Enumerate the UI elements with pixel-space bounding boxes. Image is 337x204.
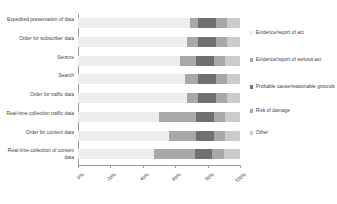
x-axis-tick [78, 165, 79, 168]
bar-segment-5[interactable] [225, 112, 240, 122]
bar-row [78, 89, 240, 108]
bar-segment-4[interactable] [216, 18, 227, 28]
stacked-bar[interactable] [78, 37, 240, 47]
bar-segment-1[interactable] [78, 93, 187, 103]
y-axis-label: Real-time collection traffic data [2, 111, 74, 117]
y-axis-label: Search [2, 73, 74, 79]
stacked-bar[interactable] [78, 93, 240, 103]
legend-swatch-icon [250, 58, 253, 61]
bar-segment-1[interactable] [78, 74, 185, 84]
bar-segment-1[interactable] [78, 56, 180, 66]
stacked-bar-chart: Expedited preservation of dataOrder for … [0, 0, 337, 204]
bar-segment-2[interactable] [169, 131, 197, 141]
y-axis-label: Seizure [2, 55, 74, 61]
bar-segment-4[interactable] [214, 112, 225, 122]
bar-segment-2[interactable] [187, 93, 198, 103]
x-axis-tick [240, 165, 241, 168]
bar-segment-3[interactable] [195, 149, 213, 159]
legend-swatch-icon [250, 131, 253, 134]
y-axis-label: Order for subscriber data [2, 36, 74, 42]
y-axis-label: Order for content data [2, 130, 74, 136]
bar-segment-4[interactable] [214, 131, 225, 141]
bar-row [78, 127, 240, 146]
bar-segment-3[interactable] [198, 37, 216, 47]
legend-item[interactable]: Risk of damage [250, 108, 336, 114]
bar-segment-3[interactable] [198, 93, 216, 103]
stacked-bar[interactable] [78, 112, 240, 122]
bar-segment-5[interactable] [227, 18, 240, 28]
bar-segment-5[interactable] [225, 131, 240, 141]
bar-segment-2[interactable] [185, 74, 198, 84]
stacked-bar[interactable] [78, 149, 240, 159]
bar-segment-1[interactable] [78, 131, 169, 141]
legend-label: Risk of damage [256, 108, 290, 114]
stacked-bar[interactable] [78, 18, 240, 28]
bar-segment-5[interactable] [227, 93, 240, 103]
bar-row [78, 14, 240, 33]
bar-segment-1[interactable] [78, 149, 154, 159]
bar-segment-5[interactable] [224, 149, 240, 159]
plot-area [78, 14, 240, 164]
bar-segment-4[interactable] [214, 56, 225, 66]
legend-swatch-icon [250, 85, 253, 88]
legend-label: Evidence/report of serious act [256, 57, 321, 63]
bar-segment-3[interactable] [198, 74, 216, 84]
y-axis-label: Real-time collection of content data [2, 148, 74, 160]
bar-segment-2[interactable] [180, 56, 196, 66]
legend-item[interactable]: Other [250, 130, 336, 136]
bar-row [78, 108, 240, 127]
bar-segment-4[interactable] [216, 74, 227, 84]
bar-segment-1[interactable] [78, 112, 159, 122]
bar-segment-3[interactable] [196, 112, 214, 122]
legend-label: Probable cause/reasonable grounds [256, 84, 335, 90]
legend-swatch-icon [250, 109, 253, 112]
y-axis-label: Expedited preservation of data [2, 17, 74, 23]
x-axis-tick [143, 165, 144, 168]
x-axis-tick [110, 165, 111, 168]
y-axis-label: Order for traffic data [2, 92, 74, 98]
bar-segment-4[interactable] [212, 149, 223, 159]
x-axis-line [78, 165, 241, 166]
bar-row [78, 70, 240, 89]
bar-segment-3[interactable] [196, 131, 214, 141]
legend-label: Other [256, 130, 268, 136]
bar-row [78, 145, 240, 164]
stacked-bar[interactable] [78, 56, 240, 66]
bar-row [78, 52, 240, 71]
bar-segment-4[interactable] [216, 93, 227, 103]
legend-item[interactable]: Probable cause/reasonable grounds [250, 84, 336, 90]
bar-segment-5[interactable] [225, 56, 240, 66]
legend-label: Evidence/report of act [256, 30, 304, 36]
legend-item[interactable]: Evidence/report of serious act [250, 57, 336, 63]
bar-segment-4[interactable] [216, 37, 227, 47]
bar-segment-2[interactable] [159, 112, 196, 122]
stacked-bar[interactable] [78, 74, 240, 84]
bar-segment-2[interactable] [187, 37, 198, 47]
legend-swatch-icon [250, 31, 253, 34]
bar-segment-2[interactable] [190, 18, 198, 28]
bar-segment-1[interactable] [78, 18, 190, 28]
stacked-bar[interactable] [78, 131, 240, 141]
bar-segment-1[interactable] [78, 37, 187, 47]
x-axis-tick [175, 165, 176, 168]
x-axis-tick [208, 165, 209, 168]
bar-segment-2[interactable] [154, 149, 195, 159]
bar-segment-5[interactable] [227, 74, 240, 84]
bar-segment-3[interactable] [196, 56, 214, 66]
bar-segment-3[interactable] [198, 18, 216, 28]
bar-segment-5[interactable] [227, 37, 240, 47]
bar-row [78, 33, 240, 52]
legend-item[interactable]: Evidence/report of act [250, 30, 336, 36]
